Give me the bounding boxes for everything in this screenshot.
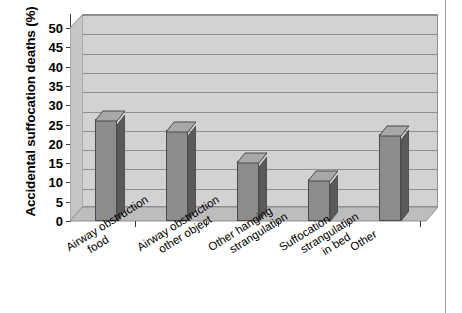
plot-left-wall [70, 14, 83, 221]
x-axis-tick-mark [420, 221, 421, 227]
bar [379, 134, 401, 221]
y-axis-tick-label: 50 [37, 22, 63, 35]
y-axis-tick-label: 40 [37, 61, 63, 74]
y-axis-tick-label: 25 [37, 119, 63, 132]
y-axis-tick-label: 10 [37, 176, 63, 189]
figure-right-rule [445, 0, 446, 313]
bar [95, 119, 117, 221]
gridline [83, 15, 437, 16]
bar-side-3d [117, 105, 125, 221]
gridline [83, 92, 437, 93]
y-axis-tick-label: 20 [37, 138, 63, 151]
gridline [83, 73, 437, 74]
y-axis-tick-label: 30 [37, 99, 63, 112]
bar-top-3d [308, 168, 338, 180]
bar-top-3d [379, 123, 409, 135]
bar-face [166, 130, 188, 221]
chart-figure: Accidental suffocation deaths (%) 051015… [0, 0, 462, 313]
bar-face [379, 134, 401, 221]
bar-top-3d [237, 150, 267, 162]
bar-top-3d [166, 119, 196, 131]
gridline [83, 54, 437, 55]
y-axis-title: Accidental suffocation deaths (%) [23, 0, 38, 226]
bar-face [95, 119, 117, 221]
bar [166, 130, 188, 221]
bar-top-3d [95, 108, 125, 120]
plot-area [70, 14, 438, 221]
y-axis-tick-label: 35 [37, 80, 63, 93]
y-axis-tick-label: 15 [37, 157, 63, 170]
gridline [83, 112, 437, 113]
gridline [83, 34, 437, 35]
y-axis-tick-label: 0 [37, 215, 63, 228]
y-axis-tick-label: 45 [37, 41, 63, 54]
y-axis-tick-label: 5 [37, 196, 63, 209]
